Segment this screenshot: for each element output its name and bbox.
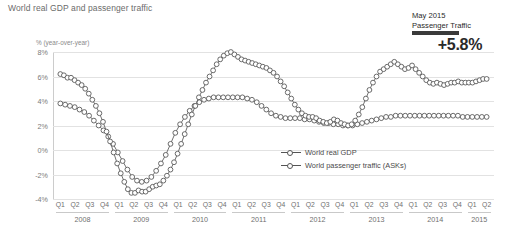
x-axis-quarter-label: Q4	[453, 201, 462, 208]
x-axis-quarter-label: Q2	[306, 201, 315, 208]
data-point-marker	[254, 100, 259, 105]
data-point-marker	[68, 104, 73, 109]
data-point-marker	[63, 102, 68, 107]
x-axis-quarter-label: Q3	[438, 201, 447, 208]
x-axis-quarter-label: Q1	[350, 201, 359, 208]
x-axis-year-label: 2010	[171, 215, 230, 224]
data-point-marker	[120, 159, 125, 164]
x-axis-quarter-label: Q1	[115, 201, 124, 208]
x-axis-year-group: 2014	[406, 212, 465, 230]
series-line	[60, 97, 486, 182]
data-point-marker	[393, 113, 398, 118]
x-axis-quarter-label: Q3	[144, 201, 153, 208]
x-axis-year-label: 2008	[53, 215, 112, 224]
data-point-marker	[189, 112, 194, 117]
x-axis-quarter-label: Q2	[188, 201, 197, 208]
data-point-marker	[135, 178, 140, 183]
data-point-marker	[451, 113, 456, 118]
data-point-marker	[479, 115, 484, 120]
data-point-marker	[460, 115, 465, 120]
data-point-marker	[374, 117, 379, 122]
data-point-marker	[104, 129, 109, 134]
data-point-marker	[91, 118, 96, 123]
data-point-marker	[175, 151, 180, 156]
data-point-marker	[250, 97, 255, 102]
data-point-marker	[465, 115, 470, 120]
x-axis-quarter-label: Q3	[203, 201, 212, 208]
data-point-marker	[403, 113, 408, 118]
data-point-marker	[207, 74, 212, 79]
data-point-marker	[144, 178, 149, 183]
data-point-marker	[275, 74, 280, 79]
x-axis-year-group: 2012	[288, 212, 347, 230]
data-point-marker	[216, 95, 221, 100]
data-point-marker	[369, 118, 374, 123]
data-point-marker	[139, 179, 144, 184]
y-axis-tick-label: 8%	[38, 48, 48, 57]
data-point-marker	[200, 88, 205, 93]
data-point-marker	[379, 116, 384, 121]
x-axis-year-label: 2014	[406, 215, 465, 224]
data-point-marker	[278, 79, 283, 84]
data-point-marker	[58, 101, 63, 106]
data-point-marker	[214, 62, 219, 67]
data-point-marker	[484, 115, 489, 120]
data-point-marker	[211, 95, 216, 100]
plot-area	[53, 52, 494, 199]
data-point-marker	[130, 175, 135, 180]
data-point-marker	[398, 113, 403, 118]
data-point-marker	[197, 95, 202, 100]
chart-figure: World real GDP and passenger traffic % (…	[0, 0, 506, 234]
data-point-marker	[484, 77, 489, 82]
x-axis-year-group: 2009	[112, 212, 171, 230]
data-point-marker	[470, 115, 475, 120]
x-axis-quarter-label: Q4	[100, 201, 109, 208]
data-point-marker	[90, 97, 95, 102]
data-point-marker	[289, 96, 294, 101]
y-axis-title: % (year-over-year)	[36, 39, 89, 46]
x-axis-year-group: 2013	[347, 212, 406, 230]
x-axis-quarter-label: Q1	[467, 201, 476, 208]
data-point-marker	[179, 141, 184, 146]
data-point-marker	[168, 167, 173, 172]
data-point-marker	[441, 113, 446, 118]
data-point-marker	[111, 150, 116, 155]
data-point-marker	[72, 105, 77, 110]
x-axis-quarter-label: Q2	[71, 201, 80, 208]
x-axis-year-label: 2009	[112, 215, 171, 224]
data-point-marker	[288, 116, 293, 121]
legend-marker-icon	[281, 161, 301, 170]
data-point-marker	[371, 80, 376, 85]
data-point-marker	[165, 173, 170, 178]
x-axis-quarter-label: Q1	[409, 201, 418, 208]
callout-date: May 2015	[412, 11, 502, 21]
x-axis-quarter-label: Q2	[247, 201, 256, 208]
data-point-marker	[82, 110, 87, 115]
legend-label: World passenger traffic (ASKs)	[305, 161, 406, 170]
callout-box: May 2015 Passenger Traffic +5.8%	[412, 11, 502, 53]
x-axis-year-label: 2011	[229, 215, 288, 224]
data-point-marker	[87, 113, 92, 118]
x-axis-year-label: 2013	[347, 215, 406, 224]
x-axis-quarter-label: Q1	[291, 201, 300, 208]
data-point-marker	[417, 113, 422, 118]
x-axis-year-group: 2010	[171, 212, 230, 230]
data-point-marker	[388, 115, 393, 120]
data-point-marker	[186, 122, 191, 127]
data-point-marker	[293, 116, 298, 121]
data-point-marker	[101, 119, 106, 124]
data-point-marker	[408, 113, 413, 118]
data-point-marker	[122, 179, 127, 184]
data-point-marker	[282, 84, 287, 89]
data-point-marker	[432, 113, 437, 118]
x-axis-quarter-label: Q4	[335, 201, 344, 208]
data-point-marker	[353, 118, 358, 123]
data-point-marker	[360, 105, 365, 110]
y-axis-tick-label: 0%	[38, 146, 48, 155]
x-axis-quarter-label: Q4	[276, 201, 285, 208]
data-point-marker	[206, 96, 211, 101]
data-point-marker	[269, 111, 274, 116]
data-point-marker	[475, 115, 480, 120]
data-point-marker	[235, 95, 240, 100]
y-axis-tick-label: -4%	[35, 195, 48, 204]
